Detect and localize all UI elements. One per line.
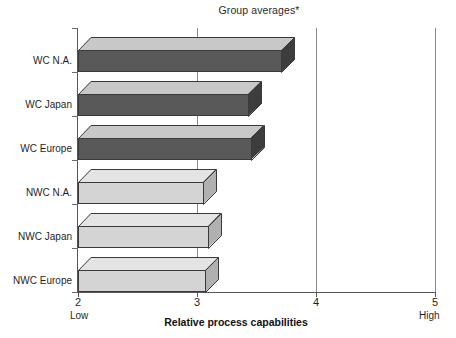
category-label-3: NWC N.A. [26, 187, 72, 198]
bar-front-face [78, 182, 204, 204]
bar-front-face [78, 50, 282, 72]
category-label-0: WC N.A. [33, 55, 72, 66]
x-tick-label-4: 4 [306, 296, 326, 308]
y-tick-3 [72, 160, 78, 161]
category-label-1: WC Japan [25, 99, 72, 110]
bar-side-outline [205, 257, 220, 294]
category-label-5: NWC Europe [13, 275, 72, 286]
bar-front-face [78, 226, 209, 248]
x-axis-line [77, 292, 435, 293]
y-tick-1 [72, 72, 78, 73]
bar-side-outline [281, 37, 296, 74]
x-axis-title-text: Relative process capabilities [164, 316, 308, 328]
bar-side-outline [251, 125, 266, 162]
x-axis-title: Relative process capabilities [0, 316, 456, 328]
plot-area [78, 28, 435, 292]
gridline-5 [435, 28, 436, 292]
category-label-4: NWC Japan [18, 231, 72, 242]
bar-front-face [78, 270, 206, 292]
y-tick-4 [72, 204, 78, 205]
category-label-2: WC Europe [20, 143, 72, 154]
y-tick-5 [72, 248, 78, 249]
bar-front-face [78, 138, 252, 160]
bar-side-outline [203, 169, 218, 206]
bar-front-face [78, 94, 249, 116]
y-axis-category-labels: WC N.A. WC Japan WC Europe NWC N.A. NWC … [0, 28, 72, 292]
bar-chart: Group averages* WC N.A. WC Japan WC Euro… [0, 0, 456, 338]
y-tick-6 [72, 292, 78, 293]
y-tick-2 [72, 116, 78, 117]
x-tick-label-5: 5 [425, 296, 445, 308]
chart-title: Group averages* [0, 4, 456, 16]
y-tick-0 [72, 28, 78, 29]
chart-title-text: Group averages* [219, 4, 300, 16]
x-tick-label-2: 2 [68, 296, 88, 308]
bar-side-outline [248, 81, 263, 118]
bar-side-outline [208, 213, 223, 250]
gridline-4 [316, 28, 317, 292]
x-tick-label-3: 3 [187, 296, 207, 308]
